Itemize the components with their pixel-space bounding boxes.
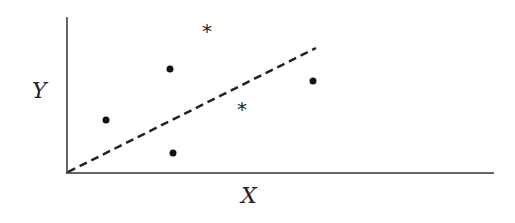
scatter-diagram: * * Y X [0,0,515,223]
star-marker: * [202,19,212,43]
data-point [170,150,177,157]
star-marker: * [237,97,247,121]
data-point [310,78,317,85]
data-point [167,66,174,73]
x-axis-label: X [239,183,258,208]
y-axis-label: Y [32,78,49,103]
data-point [103,117,110,124]
dashed-trend-line [68,48,316,172]
